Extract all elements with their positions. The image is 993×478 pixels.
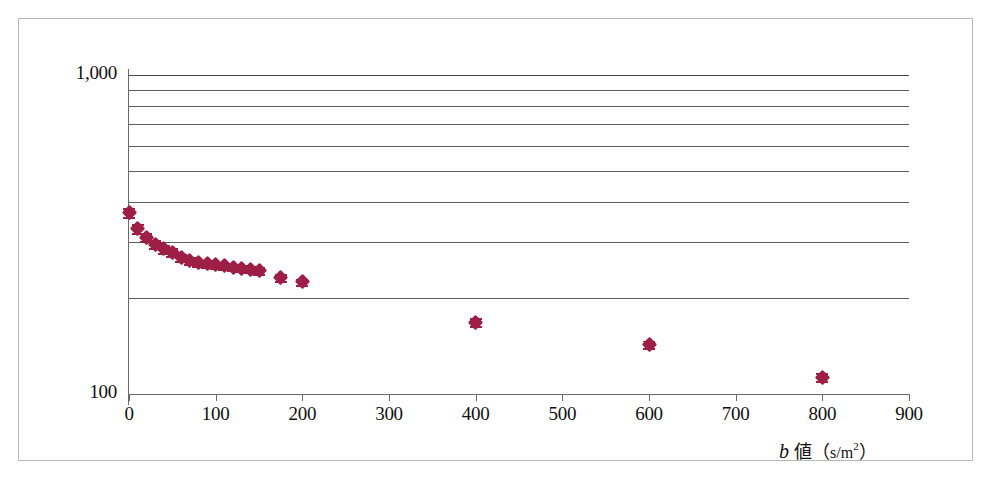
x-axis-title-close-paren: ） [859,441,877,462]
x-axis-title: b 値（s/m2） [779,437,877,463]
figure-frame: 0100200300400500600700800900 1001,000 b … [18,18,973,461]
x-tick-700 [736,394,737,401]
gridline-500 [129,171,909,172]
gridline-700 [129,124,909,125]
x-tick-label-600: 600 [619,403,679,425]
x-tick-100 [216,394,217,401]
x-tick-label-100: 100 [186,403,246,425]
gridline-300 [129,242,909,243]
x-tick-400 [476,394,477,401]
y-axis-line [128,69,129,405]
x-tick-label-300: 300 [359,403,419,425]
x-tick-200 [302,394,303,401]
x-tick-label-400: 400 [446,403,506,425]
x-axis-line [129,394,910,395]
plot-area [129,75,909,394]
x-tick-600 [649,394,650,401]
x-tick-800 [822,394,823,401]
x-tick-label-0: 0 [99,403,159,425]
gridline-900 [129,90,909,91]
x-axis-title-unit: s/m [830,444,853,461]
x-tick-900 [909,394,910,401]
x-axis-title-word: 値 [794,441,812,462]
x-tick-label-500: 500 [532,403,592,425]
gridline-600 [129,146,909,147]
gridline-800 [129,106,909,107]
figure-container: 0100200300400500600700800900 1001,000 b … [0,0,993,478]
y-tick-label-100: 100 [37,381,117,403]
x-tick-label-800: 800 [792,403,852,425]
gridline-200 [129,298,909,299]
x-tick-label-200: 200 [272,403,332,425]
x-tick-label-900: 900 [879,403,939,425]
gridline-1000 [129,75,909,76]
y-tick-label-1000: 1,000 [37,62,117,84]
x-axis-title-open-paren: （ [812,441,830,462]
x-tick-label-700: 700 [706,403,766,425]
x-tick-500 [562,394,563,401]
x-tick-0 [129,394,130,401]
gridline-400 [129,202,909,203]
x-tick-300 [389,394,390,401]
x-axis-title-symbol: b [779,440,789,462]
